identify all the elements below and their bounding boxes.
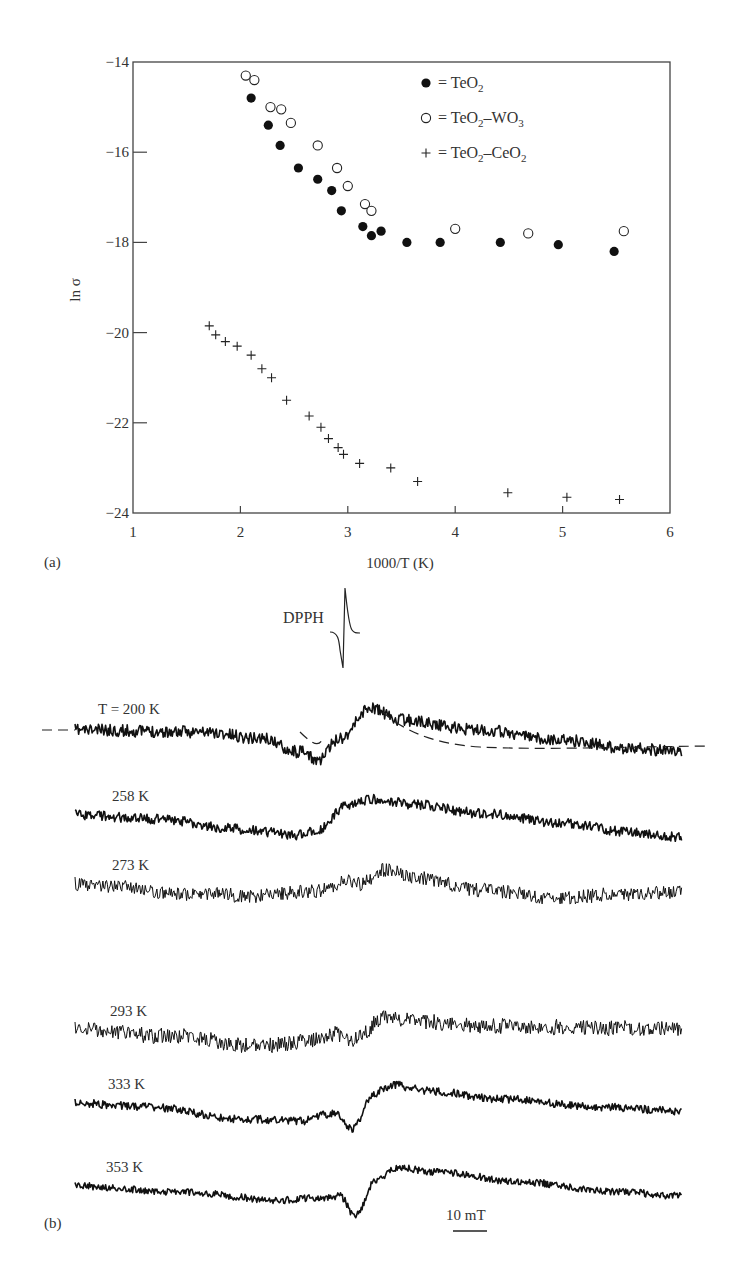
filled-circle-marker (358, 222, 367, 231)
temperature-label: 333 K (108, 1076, 145, 1092)
open-circle-marker (266, 103, 275, 112)
x-tick-label: 2 (237, 524, 245, 540)
plus-marker (334, 443, 343, 452)
filled-circle-marker (276, 141, 285, 150)
epr-spectrum-trace (75, 864, 682, 905)
panel-label-a: (a) (44, 554, 61, 571)
x-tick-label: 4 (451, 524, 459, 540)
open-circle-marker (332, 163, 341, 172)
x-tick-label: 3 (344, 524, 352, 540)
x-tick-label: 1 (129, 524, 137, 540)
y-tick-label: −14 (106, 54, 130, 70)
plus-marker (422, 149, 431, 158)
open-circle-marker (277, 105, 286, 114)
plus-marker (221, 337, 230, 346)
y-tick-label: −18 (106, 234, 129, 250)
y-axis-ticks: −14−16−18−20−22−24 (106, 54, 147, 521)
plus-marker (233, 342, 242, 351)
y-tick-label: −16 (106, 144, 130, 160)
plus-marker (282, 396, 291, 405)
plus-marker (305, 412, 314, 421)
scale-bar-label: 10 mT (446, 1207, 486, 1223)
epr-spectrum-trace (75, 1082, 682, 1133)
plus-marker (355, 459, 364, 468)
open-circle-marker (524, 229, 533, 238)
plus-marker (339, 450, 348, 459)
figure-canvas: −14−16−18−20−22−24 123456 ln σ 1000/T (K… (0, 0, 736, 1273)
legend-entry: = TeO2–WO3 (438, 109, 524, 129)
open-circle-marker (241, 71, 250, 80)
panel-b-epr-spectra: DPPH T = 200 K258 K273 K293 K333 K353 K … (42, 588, 708, 1232)
open-circle-marker (451, 224, 460, 233)
temperature-label: 258 K (112, 788, 149, 804)
plus-marker (562, 493, 571, 502)
plus-marker (324, 434, 333, 443)
filled-circle-marker (436, 238, 445, 247)
legend: = TeO2= TeO2–WO3= TeO2–CeO2 (421, 74, 526, 164)
y-axis-title: ln σ (67, 278, 83, 302)
filled-circle-marker (376, 227, 385, 236)
filled-circle-marker (337, 206, 346, 215)
open-circle-marker (619, 227, 628, 236)
data-points (205, 71, 629, 504)
filled-circle-marker (367, 231, 376, 240)
epr-spectrum-trace (75, 795, 682, 842)
filled-circle-marker (496, 238, 505, 247)
plus-marker (257, 364, 266, 373)
x-tick-label: 5 (559, 524, 567, 540)
dpph-reference-signal (330, 588, 360, 668)
open-circle-marker (286, 118, 295, 127)
x-axis-ticks: 123456 (129, 506, 674, 540)
epr-spectrum-trace (75, 703, 682, 765)
plus-marker (205, 321, 214, 330)
epr-spectrum-trace (75, 1165, 682, 1217)
temperature-label: T = 200 K (98, 701, 160, 717)
filled-circle-marker (264, 121, 273, 130)
legend-entry: = TeO2–CeO2 (438, 144, 526, 164)
x-axis-title: 1000/T (K) (366, 555, 434, 572)
temperature-label: 273 K (112, 857, 149, 873)
filled-circle-marker (313, 175, 322, 184)
open-circle-marker (313, 141, 322, 150)
y-tick-label: −22 (106, 415, 129, 431)
legend-entry: = TeO2 (438, 74, 484, 94)
panel-label-b: (b) (44, 1215, 62, 1232)
plus-marker (503, 488, 512, 497)
temperature-label: 353 K (106, 1159, 143, 1175)
plus-marker (247, 351, 256, 360)
plus-marker (386, 463, 395, 472)
plus-marker (267, 373, 276, 382)
dpph-label: DPPH (283, 609, 324, 626)
filled-circle-marker (247, 93, 256, 102)
open-circle-marker (421, 113, 430, 122)
open-circle-marker (250, 75, 259, 84)
open-circle-marker (367, 206, 376, 215)
plot-frame (133, 62, 670, 513)
plus-marker (413, 477, 422, 486)
plus-marker (211, 330, 220, 339)
epr-spectrum-trace (75, 1011, 682, 1053)
filled-circle-marker (421, 78, 430, 87)
temperature-label: 293 K (110, 1003, 147, 1019)
x-tick-label: 6 (666, 524, 674, 540)
filled-circle-marker (554, 240, 563, 249)
panel-a-scatter-plot: −14−16−18−20−22−24 123456 ln σ 1000/T (K… (44, 54, 674, 572)
y-tick-label: −20 (106, 325, 129, 341)
plus-marker (316, 423, 325, 432)
spectra-traces: T = 200 K258 K273 K293 K333 K353 K (75, 701, 682, 1218)
filled-circle-marker (327, 186, 336, 195)
plus-marker (615, 495, 624, 504)
open-circle-marker (343, 181, 352, 190)
filled-circle-marker (402, 238, 411, 247)
y-tick-label: −24 (106, 505, 130, 521)
filled-circle-marker (610, 247, 619, 256)
filled-circle-marker (294, 163, 303, 172)
